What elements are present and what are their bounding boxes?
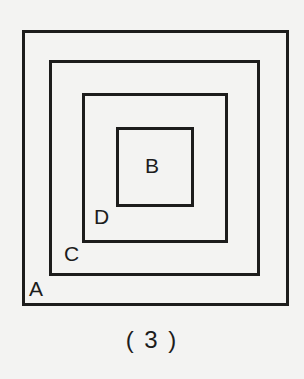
label-a: A — [29, 278, 43, 299]
label-d: D — [94, 206, 109, 227]
figure-caption: ( 3 ) — [0, 326, 304, 354]
nested-squares-diagram: B D C A ( 3 ) — [0, 0, 304, 379]
label-c: C — [64, 243, 79, 264]
label-b: B — [145, 155, 159, 176]
